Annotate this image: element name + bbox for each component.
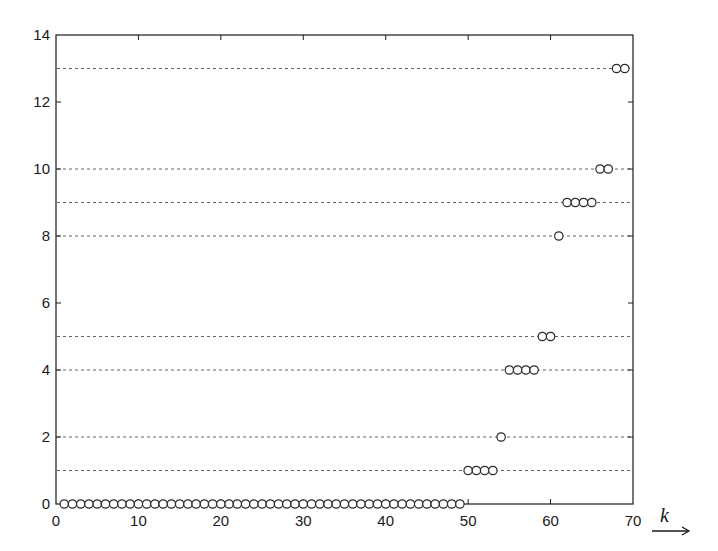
y-tick-label: 12 bbox=[33, 93, 50, 110]
circle-marker-icon bbox=[596, 165, 604, 173]
circle-marker-icon bbox=[621, 64, 629, 72]
circle-marker-icon bbox=[365, 500, 373, 508]
circle-marker-icon bbox=[604, 165, 612, 173]
circle-marker-icon bbox=[291, 500, 299, 508]
circle-marker-icon bbox=[299, 500, 307, 508]
chart: 01020304050607002468101214 k bbox=[0, 0, 718, 551]
circle-marker-icon bbox=[497, 433, 505, 441]
circle-marker-icon bbox=[332, 500, 340, 508]
circle-marker-icon bbox=[151, 500, 159, 508]
y-tick-label: 0 bbox=[42, 495, 50, 512]
circle-marker-icon bbox=[571, 198, 579, 206]
y-tick-label: 2 bbox=[42, 428, 50, 445]
x-axis-label: k bbox=[660, 504, 670, 526]
circle-marker-icon bbox=[324, 500, 332, 508]
circle-marker-icon bbox=[217, 500, 225, 508]
circle-marker-icon bbox=[68, 500, 76, 508]
circle-marker-icon bbox=[588, 198, 596, 206]
x-tick-label: 20 bbox=[213, 512, 230, 529]
circle-marker-icon bbox=[472, 466, 480, 474]
circle-marker-icon bbox=[349, 500, 357, 508]
circle-marker-icon bbox=[530, 366, 538, 374]
circle-marker-icon bbox=[118, 500, 126, 508]
circle-marker-icon bbox=[382, 500, 390, 508]
circle-marker-icon bbox=[167, 500, 175, 508]
plot-frame bbox=[56, 35, 633, 504]
circle-marker-icon bbox=[266, 500, 274, 508]
circle-marker-icon bbox=[250, 500, 258, 508]
circle-marker-icon bbox=[555, 232, 563, 240]
circle-marker-icon bbox=[192, 500, 200, 508]
y-tick-label: 4 bbox=[42, 361, 50, 378]
x-tick-label: 70 bbox=[625, 512, 642, 529]
circle-marker-icon bbox=[456, 500, 464, 508]
circle-marker-icon bbox=[200, 500, 208, 508]
circle-marker-icon bbox=[93, 500, 101, 508]
circle-marker-icon bbox=[225, 500, 233, 508]
circle-marker-icon bbox=[283, 500, 291, 508]
circle-marker-icon bbox=[439, 500, 447, 508]
circle-marker-icon bbox=[398, 500, 406, 508]
circle-marker-icon bbox=[505, 366, 513, 374]
data-markers bbox=[60, 64, 629, 508]
axes bbox=[56, 35, 633, 504]
circle-marker-icon bbox=[340, 500, 348, 508]
x-tick-label: 60 bbox=[542, 512, 559, 529]
circle-marker-icon bbox=[184, 500, 192, 508]
circle-marker-icon bbox=[316, 500, 324, 508]
circle-marker-icon bbox=[357, 500, 365, 508]
circle-marker-icon bbox=[406, 500, 414, 508]
circle-marker-icon bbox=[110, 500, 118, 508]
circle-marker-icon bbox=[142, 500, 150, 508]
circle-marker-icon bbox=[373, 500, 381, 508]
circle-marker-icon bbox=[447, 500, 455, 508]
x-tick-label: 40 bbox=[377, 512, 394, 529]
circle-marker-icon bbox=[480, 466, 488, 474]
circle-marker-icon bbox=[489, 466, 497, 474]
circle-marker-icon bbox=[126, 500, 134, 508]
x-axis-label-group: k bbox=[652, 504, 689, 535]
circle-marker-icon bbox=[563, 198, 571, 206]
circle-marker-icon bbox=[464, 466, 472, 474]
right-arrow-icon bbox=[652, 527, 689, 535]
circle-marker-icon bbox=[77, 500, 85, 508]
x-tick-label: 50 bbox=[460, 512, 477, 529]
circle-marker-icon bbox=[134, 500, 142, 508]
circle-marker-icon bbox=[233, 500, 241, 508]
y-tick-label: 8 bbox=[42, 227, 50, 244]
y-tick-label: 14 bbox=[33, 26, 50, 43]
circle-marker-icon bbox=[513, 366, 521, 374]
axis-tick-labels: 01020304050607002468101214 bbox=[33, 26, 641, 529]
circle-marker-icon bbox=[208, 500, 216, 508]
circle-marker-icon bbox=[579, 198, 587, 206]
circle-marker-icon bbox=[390, 500, 398, 508]
circle-marker-icon bbox=[60, 500, 68, 508]
y-tick-label: 10 bbox=[33, 160, 50, 177]
x-tick-label: 10 bbox=[130, 512, 147, 529]
circle-marker-icon bbox=[307, 500, 315, 508]
reference-lines bbox=[57, 69, 632, 471]
circle-marker-icon bbox=[258, 500, 266, 508]
x-tick-label: 30 bbox=[295, 512, 312, 529]
circle-marker-icon bbox=[546, 332, 554, 340]
circle-marker-icon bbox=[274, 500, 282, 508]
axis-ticks bbox=[56, 35, 633, 504]
circle-marker-icon bbox=[414, 500, 422, 508]
circle-marker-icon bbox=[85, 500, 93, 508]
circle-marker-icon bbox=[101, 500, 109, 508]
circle-marker-icon bbox=[241, 500, 249, 508]
circle-marker-icon bbox=[538, 332, 546, 340]
circle-marker-icon bbox=[159, 500, 167, 508]
circle-marker-icon bbox=[522, 366, 530, 374]
circle-marker-icon bbox=[612, 64, 620, 72]
y-tick-label: 6 bbox=[42, 294, 50, 311]
x-tick-label: 0 bbox=[52, 512, 60, 529]
circle-marker-icon bbox=[431, 500, 439, 508]
circle-marker-icon bbox=[175, 500, 183, 508]
circle-marker-icon bbox=[423, 500, 431, 508]
